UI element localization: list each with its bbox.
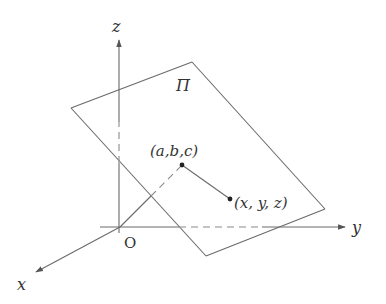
z-axis-label: z <box>111 17 121 36</box>
segment-abc-to-xyz <box>182 165 230 199</box>
x-axis-label: x <box>17 275 26 294</box>
origin-label: O <box>124 234 136 252</box>
point-xyz <box>228 197 233 202</box>
origin-to-point-line <box>120 165 182 227</box>
point-xyz-label: (x, y, z) <box>234 194 288 212</box>
point-abc-label: (a,b,c) <box>150 142 198 160</box>
point-abc <box>180 163 185 168</box>
coordinate-diagram: z y x O Π (a,b,c) (x, y, z) <box>0 0 386 304</box>
plane-label: Π <box>175 76 191 95</box>
x-axis <box>36 227 120 272</box>
y-axis-label: y <box>351 218 362 237</box>
